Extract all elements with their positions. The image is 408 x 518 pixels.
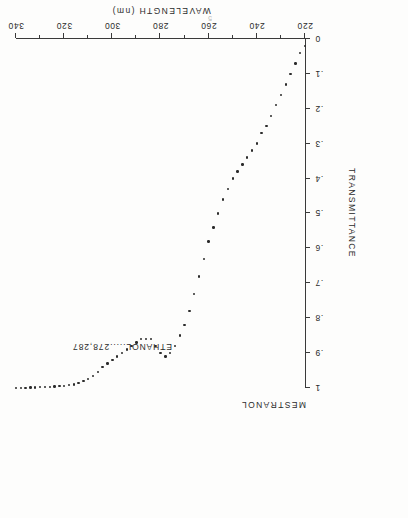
x-axis-minor-tick: [87, 35, 88, 38]
data-point: [39, 386, 41, 388]
data-point: [111, 359, 113, 361]
x-axis-label: WAVELENGTH (nm): [16, 6, 306, 16]
x-axis-tick-label: 340: [8, 21, 24, 31]
data-point: [241, 163, 243, 165]
x-axis-tick: [208, 33, 209, 38]
y-axis-tick: [305, 178, 310, 179]
data-point: [77, 382, 79, 384]
data-point: [97, 371, 99, 373]
data-point: [140, 338, 142, 340]
data-point: [44, 386, 46, 388]
spectrum-figure: MESTRANOL ETHANOL.....278,287 TRANSMITTA…: [0, 0, 408, 388]
data-point: [154, 345, 156, 347]
x-axis-tick: [63, 33, 64, 38]
data-point: [159, 352, 161, 354]
data-point: [193, 293, 195, 295]
data-point: [198, 275, 200, 277]
data-point: [82, 380, 84, 382]
data-point: [121, 352, 123, 354]
data-point: [232, 177, 234, 179]
data-point: [150, 338, 152, 340]
y-axis-tick: [305, 247, 310, 248]
page-number-mark: 5: [208, 15, 212, 22]
data-point: [126, 348, 128, 350]
x-axis-tick-label: 220: [297, 21, 313, 31]
data-point: [63, 385, 65, 387]
y-axis-tick-label: .5: [315, 209, 323, 219]
data-point: [275, 104, 277, 106]
data-point: [87, 378, 89, 380]
x-axis-minor-tick: [39, 35, 40, 38]
data-point: [179, 334, 181, 336]
data-point: [256, 143, 258, 145]
data-point: [280, 94, 282, 96]
y-axis-tick-label: .7: [315, 278, 323, 288]
x-axis-tick-label: 320: [56, 21, 72, 31]
y-axis-tick: [305, 213, 310, 214]
data-point: [53, 385, 55, 387]
x-axis-tick: [256, 33, 257, 38]
x-axis-tick-label: 240: [249, 21, 265, 31]
data-point: [49, 386, 51, 388]
data-point: [265, 125, 267, 127]
data-point: [174, 345, 176, 347]
y-axis-label: TRANSMITTANCE: [347, 168, 357, 258]
data-point: [285, 83, 287, 85]
y-axis-tick: [305, 73, 310, 74]
x-axis-tick-label: 260: [201, 21, 217, 31]
data-point: [130, 345, 132, 347]
data-point: [246, 156, 248, 158]
y-axis-tick-label: .8: [315, 313, 323, 323]
data-point: [145, 338, 147, 340]
y-axis-tick: [305, 352, 310, 353]
y-axis-tick-label: .2: [315, 104, 323, 114]
data-point: [289, 73, 291, 75]
x-axis-minor-tick: [280, 35, 281, 38]
y-axis-tick: [305, 143, 310, 144]
y-axis-tick: [305, 387, 310, 388]
data-point: [294, 62, 296, 64]
y-axis-tick-label: .4: [315, 174, 323, 184]
data-point: [217, 212, 219, 214]
y-axis-tick: [305, 108, 310, 109]
page-title: MESTRANOL: [241, 400, 307, 410]
data-point: [73, 383, 75, 385]
data-point: [236, 170, 238, 172]
data-point: [58, 385, 60, 387]
x-axis-tick: [15, 33, 16, 38]
data-point: [15, 387, 17, 389]
data-point: [183, 324, 185, 326]
data-point: [24, 387, 26, 389]
y-axis-tick-label: .1: [315, 69, 323, 79]
data-point: [270, 115, 272, 117]
data-point: [203, 258, 205, 260]
data-point: [106, 362, 108, 364]
x-axis-minor-tick: [135, 35, 136, 38]
y-axis-tick: [305, 38, 310, 39]
x-axis-minor-tick: [184, 35, 185, 38]
y-axis-tick-label: 1: [315, 383, 320, 393]
data-point: [212, 226, 214, 228]
data-point: [102, 366, 104, 368]
data-point: [29, 386, 31, 388]
data-point: [299, 52, 301, 54]
data-point: [169, 352, 171, 354]
data-point: [116, 355, 118, 357]
data-point: [207, 240, 209, 242]
data-point: [260, 132, 262, 134]
y-axis-tick-label: 0: [315, 34, 320, 44]
data-point: [92, 375, 94, 377]
x-axis-tick-label: 280: [153, 21, 169, 31]
data-point: [135, 341, 137, 343]
scanned-page-sheet: MESTRANOL ETHANOL.....278,287 TRANSMITTA…: [0, 0, 408, 518]
data-point: [227, 188, 229, 190]
data-point: [251, 149, 253, 151]
x-axis-tick: [111, 33, 112, 38]
data-point: [304, 45, 306, 47]
data-point: [20, 387, 22, 389]
plot-area: 2202402602803003203400.1.2.3.4.5.6.7.8.9…: [16, 38, 306, 388]
y-axis-tick-label: .6: [315, 243, 323, 253]
data-point: [188, 310, 190, 312]
x-axis-tick-label: 300: [104, 21, 120, 31]
data-point: [34, 386, 36, 388]
